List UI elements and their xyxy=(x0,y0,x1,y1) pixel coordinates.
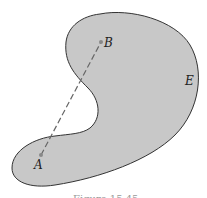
non-convex-region-diagram: B A E Figure 15.45 xyxy=(0,0,207,198)
label-a: A xyxy=(33,158,43,172)
figure-caption: Figure 15.45 xyxy=(73,193,138,198)
point-b xyxy=(99,40,103,44)
label-b: B xyxy=(103,36,113,50)
label-e: E xyxy=(184,74,194,88)
point-a xyxy=(39,153,43,157)
